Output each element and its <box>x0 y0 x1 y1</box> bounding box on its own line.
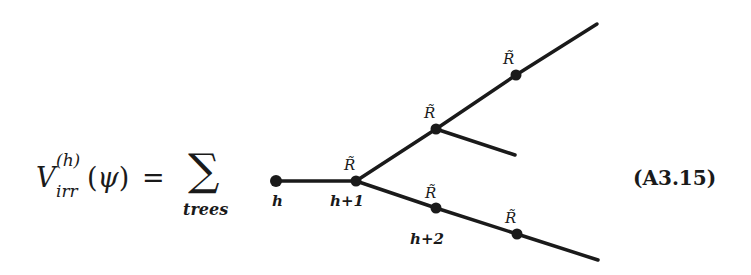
tree-edge-upper-1 <box>356 129 436 181</box>
tree-edge-lower-3 <box>517 234 598 260</box>
tree-edge-lower-1 <box>356 181 436 208</box>
tree-diagram: R̃ R̃ R̃ R̃ R̃ h h+1 h+2 <box>0 0 751 275</box>
tree-node-h1 <box>351 176 362 187</box>
tree-edge-upper-2 <box>436 75 516 129</box>
scale-label-h-plus-2: h+2 <box>410 230 444 248</box>
vertex-label-lower-2: R̃ <box>504 209 516 227</box>
tree-edge-upper-3 <box>516 24 597 75</box>
tree-node-lower-2 <box>512 229 523 240</box>
tree-node-lower-1 <box>431 203 442 214</box>
scale-label-h: h <box>272 192 283 210</box>
scale-label-h-plus-1: h+1 <box>330 192 364 210</box>
tree-edge-short-branch <box>436 129 515 155</box>
tree-node-upper-2 <box>511 70 522 81</box>
vertex-label-lower-1: R̃ <box>424 184 436 202</box>
tree-node-upper-1 <box>431 124 442 135</box>
tree-node-root <box>270 175 282 187</box>
vertex-label-upper-2: R̃ <box>502 50 514 68</box>
vertex-label-upper-1: R̃ <box>423 104 435 122</box>
vertex-label-h1: R̃ <box>343 156 355 174</box>
